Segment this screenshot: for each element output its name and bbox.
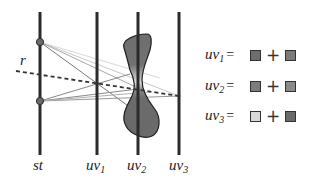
swatch-b	[285, 50, 296, 61]
legend-row-uv2: uv2= +	[205, 78, 296, 94]
plane-label-uv2: uv2	[127, 158, 146, 175]
scene-object	[124, 34, 160, 137]
node-top	[36, 38, 43, 45]
swatch-b	[285, 111, 296, 122]
node-bottom	[36, 97, 43, 104]
plus-icon: +	[266, 47, 280, 64]
swatch-a	[250, 111, 261, 122]
plane-label-uv1-main: uv	[86, 157, 100, 173]
plane-label-uv3-main: uv	[169, 157, 183, 173]
legend-label: uv2=	[205, 77, 250, 95]
plane-label-uv1-sub: 1	[100, 164, 105, 175]
plane-label-uv1: uv1	[86, 158, 105, 175]
plus-icon: +	[266, 108, 280, 125]
plane-label-st: st	[33, 158, 43, 173]
plane-label-st-main: st	[33, 157, 43, 173]
legend-label: uv3=	[205, 107, 250, 125]
legend-row-uv3: uv3= +	[205, 108, 296, 124]
plane-lines	[40, 12, 179, 155]
swatch-a	[250, 81, 261, 92]
swatch-a	[250, 50, 261, 61]
swatch-b	[285, 81, 296, 92]
plane-label-uv2-sub: 2	[141, 164, 146, 175]
ray-label: r	[20, 53, 26, 68]
intersection-uv3	[178, 95, 181, 98]
legend-label: uv1=	[205, 46, 250, 64]
legend-row-uv1: uv1= +	[205, 47, 296, 63]
plus-icon: +	[266, 78, 280, 95]
plane-label-uv3: uv3	[169, 158, 188, 175]
plane-label-uv2-main: uv	[127, 157, 141, 173]
intersection-uv1	[95, 81, 98, 84]
plane-label-uv3-sub: 3	[183, 164, 188, 175]
